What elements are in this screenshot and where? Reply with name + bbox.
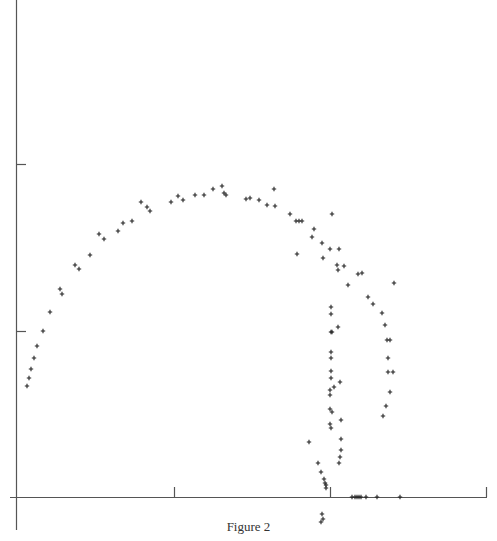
plus-marker — [336, 325, 340, 329]
plus-marker — [386, 356, 390, 360]
plus-marker — [121, 221, 125, 225]
plus-marker — [337, 461, 341, 465]
y-ticks — [16, 165, 26, 332]
plus-marker — [388, 338, 392, 342]
scatter-plot — [0, 0, 497, 541]
plus-marker — [181, 198, 185, 202]
plus-marker — [27, 376, 31, 380]
plus-marker — [272, 187, 276, 191]
plus-marker — [88, 253, 92, 257]
plus-marker — [335, 263, 339, 267]
plus-marker — [25, 384, 29, 388]
plus-marker — [366, 295, 370, 299]
plus-marker — [322, 477, 326, 481]
plus-marker — [48, 310, 52, 314]
plus-marker — [371, 302, 375, 306]
plus-marker — [220, 184, 224, 188]
plus-marker — [328, 247, 332, 251]
plus-marker — [339, 418, 343, 422]
plus-marker — [329, 376, 333, 380]
plus-marker — [307, 440, 311, 444]
plus-marker — [145, 205, 149, 209]
plus-marker — [391, 370, 395, 374]
plus-marker — [320, 241, 324, 245]
axes — [10, 0, 487, 530]
plus-marker — [328, 388, 332, 392]
plus-marker — [336, 268, 340, 272]
plus-marker — [202, 193, 206, 197]
plus-marker — [310, 235, 314, 239]
plus-marker — [329, 356, 333, 360]
plus-marker — [364, 495, 368, 499]
plus-marker — [342, 264, 346, 268]
plus-marker — [300, 219, 304, 223]
plus-marker — [384, 404, 388, 408]
plus-marker — [329, 426, 333, 430]
plus-marker — [321, 256, 325, 260]
plus-marker — [32, 356, 36, 360]
plus-marker — [375, 495, 379, 499]
plus-marker — [58, 287, 62, 291]
plus-marker — [211, 187, 215, 191]
plus-marker — [116, 229, 120, 233]
plus-marker — [176, 194, 180, 198]
plus-marker — [328, 422, 332, 426]
plus-marker — [60, 292, 64, 296]
plus-marker — [265, 203, 269, 207]
plus-marker — [386, 370, 390, 374]
plus-marker — [319, 470, 323, 474]
plus-marker — [398, 495, 402, 499]
plus-marker — [337, 247, 341, 251]
figure-caption: Figure 2 — [0, 519, 497, 535]
plus-marker — [148, 209, 152, 213]
plus-marker — [356, 272, 360, 276]
plus-marker — [295, 252, 299, 256]
plus-marker — [328, 393, 332, 397]
plus-marker — [383, 323, 387, 327]
plus-marker — [130, 219, 134, 223]
plus-marker — [329, 305, 333, 309]
plus-marker — [339, 437, 343, 441]
plus-marker — [288, 212, 292, 216]
x-ticks — [175, 487, 487, 497]
plus-marker — [97, 232, 101, 236]
data-points — [25, 184, 402, 524]
plus-marker — [257, 198, 261, 202]
plus-marker — [73, 263, 77, 267]
plus-marker — [338, 380, 342, 384]
plus-marker — [169, 200, 173, 204]
plus-marker — [392, 281, 396, 285]
plus-marker — [329, 312, 333, 316]
plus-marker — [320, 512, 324, 516]
plus-marker — [273, 204, 277, 208]
plus-marker — [248, 196, 252, 200]
plus-marker — [102, 237, 106, 241]
plus-marker — [332, 385, 336, 389]
plus-marker — [193, 193, 197, 197]
plus-marker — [346, 283, 350, 287]
plus-marker — [330, 212, 334, 216]
plus-marker — [316, 461, 320, 465]
plus-marker — [338, 455, 342, 459]
plus-marker — [381, 414, 385, 418]
plus-marker — [324, 486, 328, 490]
plus-marker — [380, 311, 384, 315]
plus-marker — [339, 448, 343, 452]
plus-marker — [41, 329, 45, 333]
plus-marker — [329, 369, 333, 373]
plus-marker — [312, 227, 316, 231]
plus-marker — [388, 390, 392, 394]
plus-marker — [77, 267, 81, 271]
plus-marker — [244, 197, 248, 201]
plus-marker — [29, 367, 33, 371]
plus-marker — [360, 271, 364, 275]
plus-marker — [139, 200, 143, 204]
plus-marker — [329, 350, 333, 354]
plus-marker — [35, 344, 39, 348]
